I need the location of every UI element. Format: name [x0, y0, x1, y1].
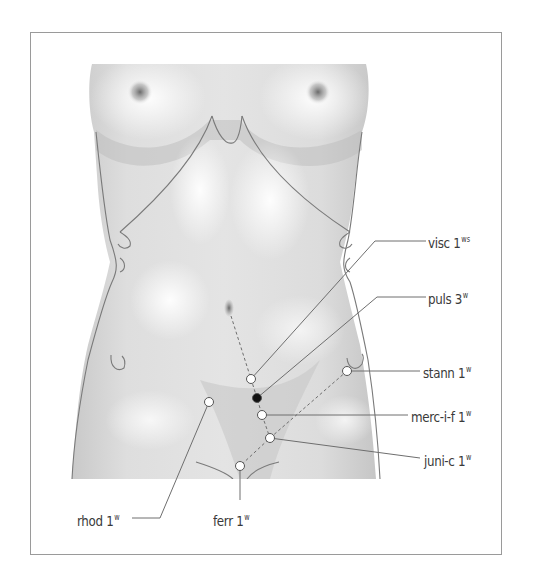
label-visc: visc 1ws — [428, 232, 470, 251]
point-merc-i-f[interactable] — [258, 411, 267, 420]
point-ferr[interactable] — [236, 462, 245, 471]
label-merc-i-f-text: merc-i-f 1 — [411, 409, 465, 425]
torso-body — [72, 56, 376, 479]
point-rhod[interactable] — [205, 398, 214, 407]
label-puls-text: puls 3 — [428, 291, 462, 307]
left-nipple — [127, 79, 153, 105]
label-juni-c-grade: w — [466, 453, 471, 462]
point-puls[interactable] — [253, 394, 262, 403]
label-ferr-grade: w — [244, 513, 249, 522]
label-juni-c: juni-c 1w — [424, 450, 471, 469]
label-visc-text: visc 1 — [428, 235, 460, 251]
label-visc-grade: ws — [461, 235, 470, 244]
label-stann-grade: w — [466, 365, 471, 374]
diagram-stage: visc 1ws puls 3w stann 1w merc-i-f 1w ju… — [0, 0, 538, 580]
label-merc-i-f: merc-i-f 1w — [411, 406, 471, 425]
point-juni-c[interactable] — [266, 434, 275, 443]
navel — [224, 299, 234, 317]
label-puls: puls 3w — [428, 288, 468, 307]
label-merc-i-f-grade: w — [466, 409, 471, 418]
label-stann: stann 1w — [423, 362, 471, 381]
label-stann-text: stann 1 — [423, 365, 465, 381]
label-puls-grade: w — [463, 291, 468, 300]
label-juni-c-text: juni-c 1 — [424, 453, 465, 469]
label-rhod-text: rhod 1 — [77, 513, 113, 529]
right-nipple — [305, 79, 331, 105]
point-stann[interactable] — [343, 367, 352, 376]
point-visc[interactable] — [247, 375, 256, 384]
label-ferr-text: ferr 1 — [213, 513, 243, 529]
label-rhod: rhod 1w — [77, 510, 120, 529]
label-rhod-grade: w — [114, 513, 119, 522]
label-ferr: ferr 1w — [213, 510, 250, 529]
